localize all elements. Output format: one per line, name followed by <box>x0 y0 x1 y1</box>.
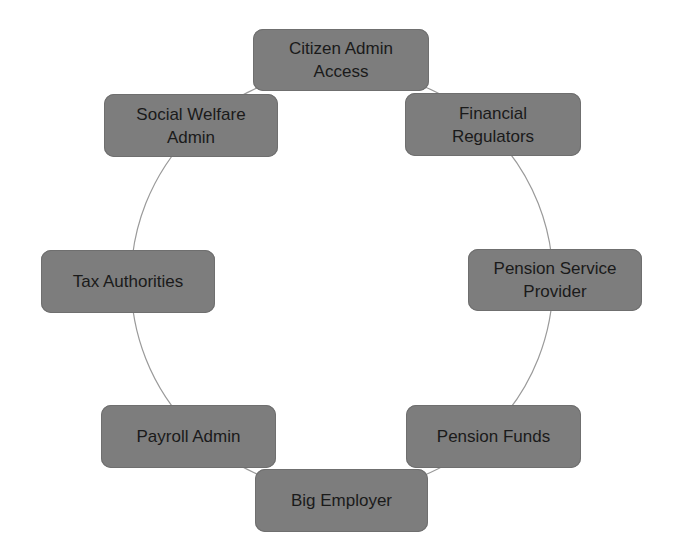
node-label: Tax Authorities <box>73 270 184 293</box>
node-label: Big Employer <box>291 489 392 512</box>
node-citizen-admin-access: Citizen Admin Access <box>253 29 429 91</box>
node-financial-regulators: Financial Regulators <box>405 93 581 156</box>
node-tax-authorities: Tax Authorities <box>41 250 215 313</box>
node-label: Social Welfare Admin <box>136 103 245 149</box>
cycle-diagram: Citizen Admin Access Financial Regulator… <box>0 0 677 556</box>
node-label: Pension Service Provider <box>494 257 617 303</box>
node-label: Payroll Admin <box>137 425 241 448</box>
node-payroll-admin: Payroll Admin <box>101 405 276 468</box>
node-social-welfare-admin: Social Welfare Admin <box>104 94 278 157</box>
node-label: Pension Funds <box>437 425 550 448</box>
node-label: Financial Regulators <box>452 102 534 148</box>
node-pension-service-provider: Pension Service Provider <box>468 249 642 311</box>
node-label: Citizen Admin Access <box>289 37 393 83</box>
node-big-employer: Big Employer <box>255 469 428 532</box>
node-pension-funds: Pension Funds <box>406 405 581 468</box>
